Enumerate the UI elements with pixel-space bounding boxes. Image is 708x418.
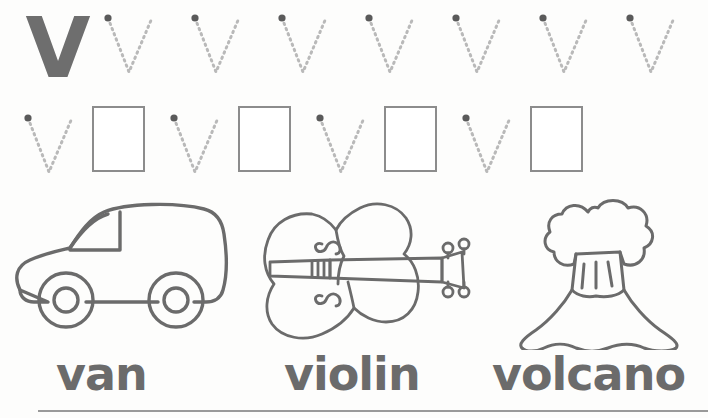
tracing-letter-v-1[interactable]	[18, 110, 80, 182]
volcano-icon	[492, 192, 708, 350]
tracing-letter-v-3[interactable]	[272, 10, 334, 82]
practice-box-2[interactable]	[238, 106, 291, 172]
tracing-letter-v-3[interactable]	[310, 110, 372, 182]
violin-icon	[252, 192, 478, 342]
word-row: van violin volcano	[0, 346, 708, 404]
tracing-letter-v-5[interactable]	[446, 10, 508, 82]
word-label-volcano: volcano	[492, 346, 685, 402]
practice-box-1[interactable]	[92, 106, 145, 172]
van-icon	[8, 192, 240, 337]
word-label-violin: violin	[284, 346, 420, 402]
tracing-letter-v-4[interactable]	[456, 110, 518, 182]
tracing-row-2	[0, 98, 708, 193]
picture-row	[0, 192, 708, 352]
tracing-letter-v-6[interactable]	[533, 10, 595, 82]
tracing-letter-v-7[interactable]	[620, 10, 682, 82]
tracing-row-1: V	[0, 2, 708, 97]
bottom-divider	[38, 410, 708, 412]
tracing-letter-v-4[interactable]	[359, 10, 421, 82]
tracing-worksheet: V	[0, 0, 708, 418]
model-letter-v: V	[22, 8, 94, 88]
tracing-letter-v-2[interactable]	[185, 10, 247, 82]
practice-box-3[interactable]	[384, 106, 437, 172]
tracing-letter-v-1[interactable]	[98, 10, 160, 82]
word-label-van: van	[56, 346, 147, 402]
practice-box-4[interactable]	[530, 106, 583, 172]
tracing-letter-v-2[interactable]	[164, 110, 226, 182]
